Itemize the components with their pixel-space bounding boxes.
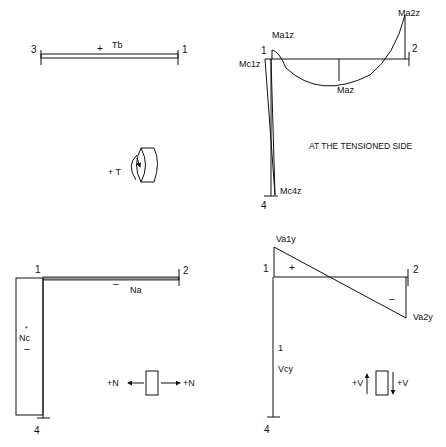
- svg-text:*: *: [25, 325, 28, 332]
- shear-line: [274, 247, 406, 318]
- label-vcy-tick: 1: [278, 343, 283, 353]
- node-label-1: 1: [182, 44, 188, 55]
- axial-convention-icon: +N +N: [107, 371, 195, 395]
- axial-diagram: 1 2 4 – Na Nc * – +N +N: [16, 264, 195, 436]
- shear-diagram: Va1y Va2y 1 Vcy + – 1 2 4 +V +V: [263, 234, 433, 435]
- frame-diagrams: 3 1 + Tb + T Ma2z Ma1z Maz Mc1z Mc4z: [0, 0, 446, 447]
- axial-convention-left: +N: [107, 378, 119, 388]
- node-label-1: 1: [261, 45, 267, 56]
- torsion-label: Tb: [112, 40, 123, 50]
- label-va1y: Va1y: [276, 234, 296, 244]
- node-label-3: 3: [31, 44, 37, 55]
- label-ma2z: Ma2z: [398, 8, 421, 18]
- label-mc4z: Mc4z: [280, 186, 302, 196]
- node-label-1: 1: [263, 263, 269, 274]
- column-axial-label: Nc: [19, 333, 30, 343]
- node-label-2: 2: [413, 264, 419, 275]
- tensioned-side-note: AT THE TENSIONED SIDE: [309, 141, 413, 151]
- node-label-4: 4: [34, 425, 40, 436]
- label-vcy: Vcy: [278, 364, 294, 374]
- node-label-4: 4: [264, 424, 270, 435]
- label-ma1z: Ma1z: [272, 30, 295, 40]
- node-label-1: 1: [35, 264, 41, 275]
- torsion-convention-label: + T: [108, 167, 122, 177]
- torsion-sign: +: [97, 43, 103, 54]
- beam-axial-sign: –: [113, 278, 119, 289]
- label-va2y: Va2y: [413, 312, 433, 322]
- axial-beam-band: [43, 277, 179, 280]
- node-label-2: 2: [412, 43, 418, 54]
- shear-positive-sign: +: [289, 262, 295, 273]
- shear-convention-left: +V: [352, 378, 363, 388]
- moment-diagram: Ma2z Ma1z Maz Mc1z Mc4z 1 2 4 AT THE TEN…: [239, 8, 421, 211]
- shear-convention-icon: +V +V: [352, 371, 408, 395]
- shear-negative-sign: –: [389, 293, 395, 304]
- label-mc1z: Mc1z: [239, 59, 261, 69]
- column-axial-sign: –: [24, 343, 30, 354]
- node-label-2: 2: [183, 265, 189, 276]
- axial-convention-right: +N: [183, 378, 195, 388]
- torsion-diagram: 3 1 + Tb + T: [31, 40, 188, 182]
- node-label-4: 4: [261, 200, 267, 211]
- torsion-convention-icon: + T: [108, 148, 158, 182]
- label-maz: Maz: [337, 85, 355, 95]
- column-moment: [265, 59, 275, 195]
- shear-convention-right: +V: [397, 378, 408, 388]
- beam-axial-label: Na: [130, 285, 142, 295]
- torsion-beam: [41, 54, 178, 58]
